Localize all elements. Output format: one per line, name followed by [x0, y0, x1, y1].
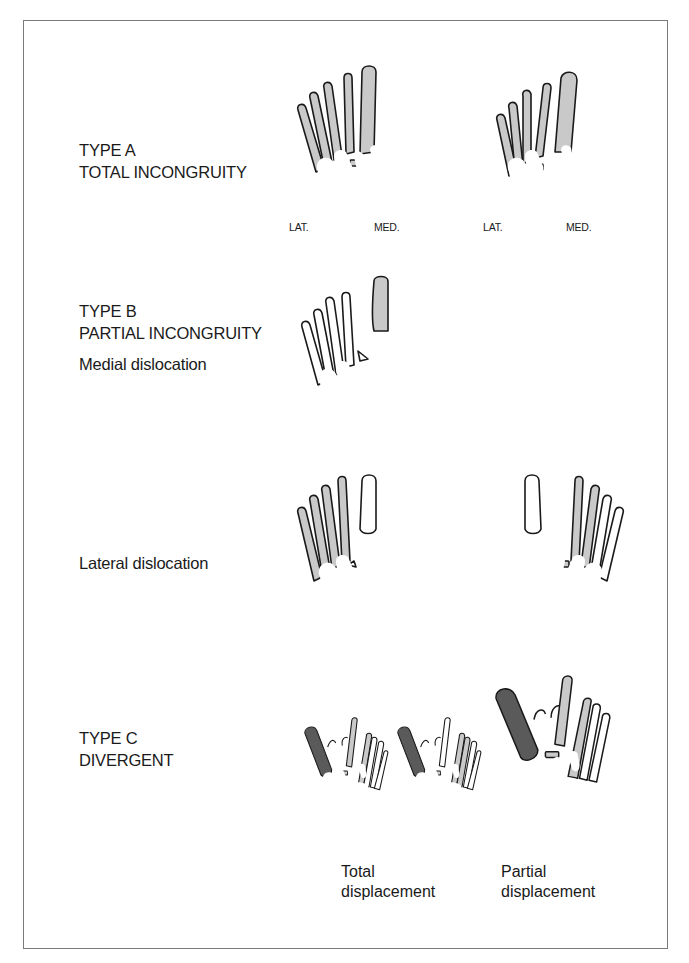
partial-displacement-caption-line1: Partial — [501, 862, 546, 882]
type-c-title: TYPE C — [79, 727, 137, 749]
type-b-title: TYPE B — [79, 300, 137, 322]
lateral-dislocation-foot-left — [296, 475, 416, 665]
type-a-foot-left-med-label: MED. — [374, 221, 399, 233]
type-b-subtitle: PARTIAL INCONGRUITY — [79, 322, 262, 344]
type-c-total-foot-left — [305, 712, 385, 842]
partial-displacement-caption-line2: displacement — [501, 882, 595, 902]
medial-dislocation-label: Medial dislocation — [79, 353, 207, 375]
type-c-total-foot-right — [398, 712, 478, 842]
type-a-foot-left-lat-label: LAT. — [289, 221, 308, 233]
type-c-partial-foot — [493, 676, 613, 856]
total-displacement-caption-line1: Total — [341, 862, 375, 882]
lateral-dislocation-label: Lateral dislocation — [79, 552, 208, 574]
type-a-subtitle: TOTAL INCONGRUITY — [79, 161, 247, 183]
type-a-foot-right-lat-label: LAT. — [483, 221, 502, 233]
type-a-title: TYPE A — [79, 139, 136, 161]
type-a-foot-right-med-label: MED. — [566, 221, 591, 233]
total-displacement-caption-line2: displacement — [341, 882, 435, 902]
type-c-subtitle: DIVERGENT — [79, 749, 173, 771]
medial-dislocation-foot — [296, 275, 416, 465]
lateral-dislocation-foot-right — [505, 475, 625, 665]
